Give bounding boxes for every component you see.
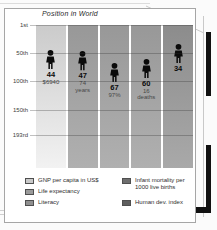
y-tick-label: 150th bbox=[0, 107, 28, 114]
rank-value: 44 bbox=[47, 71, 55, 79]
rank-value: 34 bbox=[174, 65, 182, 73]
figure-5: 34 bbox=[163, 44, 193, 73]
legend-swatch-icon bbox=[25, 189, 34, 195]
rank-sublabel: deaths bbox=[137, 94, 155, 101]
y-tick-label: 1st bbox=[0, 22, 28, 29]
black-edge-tab-bottom-icon bbox=[206, 145, 211, 213]
gridline-150th bbox=[30, 110, 193, 111]
rank-sublabel: 97% bbox=[108, 92, 120, 99]
legend-item: Life expectancy bbox=[25, 188, 120, 195]
y-tick-label: 193rd bbox=[0, 132, 28, 139]
figure-4: 6016deaths bbox=[131, 59, 161, 101]
legend-swatch-icon bbox=[122, 178, 131, 184]
rank-sublabel: years bbox=[75, 87, 90, 94]
legend-label: Life expectancy bbox=[38, 188, 120, 195]
gridline-1st bbox=[30, 25, 193, 26]
chart-title: Position in World bbox=[42, 10, 98, 17]
legend-item: Literacy bbox=[25, 199, 120, 206]
black-edge-tab-foot-icon bbox=[196, 207, 211, 213]
person-icon bbox=[76, 51, 89, 71]
y-tick-label: 100th bbox=[0, 78, 28, 85]
legend-label: Human dev. index bbox=[135, 199, 199, 206]
y-tick-label: 50th bbox=[0, 50, 28, 57]
figure-2: 4774years bbox=[68, 51, 98, 93]
legend-item: GNP per capita in US$ bbox=[25, 177, 120, 184]
rank-value: 47 bbox=[79, 72, 87, 80]
legend-label: GNP per capita in US$ bbox=[38, 177, 120, 184]
legend-label: Literacy bbox=[38, 199, 120, 206]
black-edge-tab-top-icon bbox=[206, 32, 211, 96]
person-icon bbox=[140, 59, 153, 79]
legend-swatch-icon bbox=[122, 200, 131, 206]
column-2 bbox=[68, 25, 98, 168]
legend-item: Human dev. index bbox=[122, 199, 199, 206]
gridline-193rd bbox=[30, 135, 193, 136]
legend-item: Infant mortality per 1000 live births bbox=[122, 177, 199, 191]
figure-1: 44$6940 bbox=[36, 50, 66, 86]
legend-label: Infant mortality per 1000 live births bbox=[135, 177, 199, 191]
column-1 bbox=[36, 25, 66, 168]
rank-value: 67 bbox=[110, 84, 118, 92]
legend-swatch-icon bbox=[25, 178, 34, 184]
person-icon bbox=[108, 63, 121, 83]
gridline-100th bbox=[30, 81, 193, 82]
legend-swatch-icon bbox=[25, 200, 34, 206]
gridline-50th bbox=[30, 53, 193, 54]
person-icon bbox=[172, 44, 185, 64]
